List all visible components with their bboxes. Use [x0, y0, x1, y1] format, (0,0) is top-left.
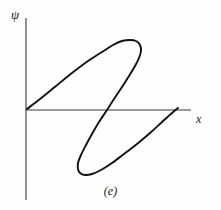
psi-axis-label: ψ	[11, 8, 19, 21]
hysteresis-curve	[27, 40, 178, 175]
plot-canvas	[0, 0, 221, 210]
figure-container: ψ x (e)	[0, 0, 221, 210]
x-axis-label: x	[196, 113, 201, 125]
figure-caption: (e)	[0, 184, 221, 199]
